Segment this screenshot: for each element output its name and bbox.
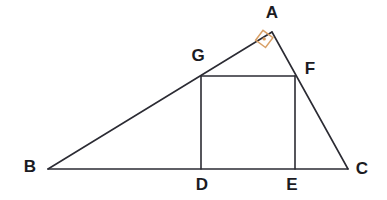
geometry-diagram: A B C D E F G (0, 0, 387, 200)
vertex-label-F: F (305, 59, 315, 78)
vertex-label-E: E (286, 175, 297, 194)
vertex-label-B: B (24, 157, 36, 176)
vertex-label-G: G (191, 46, 204, 65)
segment-BA (48, 32, 272, 169)
vertex-label-A: A (266, 3, 278, 22)
vertex-label-D: D (196, 175, 208, 194)
right-angle-marker-dot-icon (263, 37, 266, 40)
segment-AC (272, 32, 348, 169)
geometry-canvas: A B C D E F G (0, 0, 387, 200)
vertex-label-C: C (356, 159, 368, 178)
